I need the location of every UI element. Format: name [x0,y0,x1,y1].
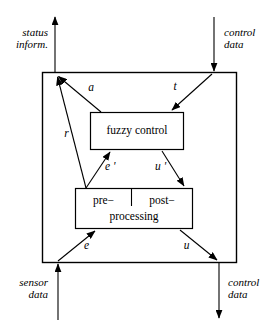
label-status-information: status inform. [0,26,48,51]
processing-block-label-processing: processing [76,210,192,223]
label-signal-u-prime: u ' [155,160,175,173]
label-signal-u: u [180,239,193,252]
label-signal-a: a [84,81,98,94]
label-signal-t: t [169,80,181,93]
outer-boundary-rect [43,73,237,263]
label-signal-e: e [80,239,93,252]
processing-block-label-post: post− [133,194,191,207]
label-signal-e-prime: e ' [105,160,125,173]
fuzzy-control-block-label: fuzzy control [90,124,184,137]
processing-block-label-pre: pre− [76,194,131,207]
label-signal-r: r [60,127,73,140]
label-control-data-bottom: control data [228,276,269,301]
label-control-data-top: control data [224,26,269,51]
diagram-canvas: status inform. control data sensor data … [0,0,269,334]
label-sensor-data: sensor data [0,276,48,301]
